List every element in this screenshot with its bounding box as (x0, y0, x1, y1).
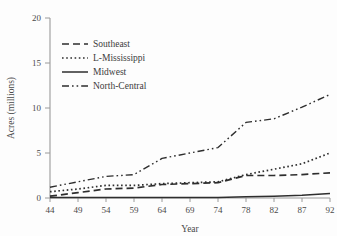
series-group (50, 95, 330, 198)
x-axis-ticks: 4449545964697478828792 (46, 198, 335, 215)
x-tick-label: 44 (46, 205, 56, 215)
series-line-l-mississippi (50, 153, 330, 192)
series-line-southeast (50, 173, 330, 196)
x-tick-label: 82 (270, 205, 279, 215)
x-tick-label: 92 (326, 205, 335, 215)
legend-label-l-mississippi: L-Mississippi (93, 53, 146, 63)
x-tick-label: 59 (130, 205, 140, 215)
y-axis-ticks: 05101520 (32, 13, 50, 203)
legend-label-north-central: North-Central (93, 81, 147, 91)
y-axis-title: Acres (millions) (6, 77, 17, 139)
chart-legend: SoutheastL-MississippiMidwestNorth-Centr… (62, 39, 147, 91)
x-tick-label: 64 (158, 205, 168, 215)
legend-label-midwest: Midwest (93, 67, 127, 77)
line-chart-canvas: 05101520 4449545964697478828792 Southeas… (0, 0, 337, 236)
chart-figure: 05101520 4449545964697478828792 Southeas… (0, 0, 337, 236)
x-tick-label: 87 (298, 205, 308, 215)
x-tick-label: 49 (74, 205, 84, 215)
series-line-north-central (50, 95, 330, 188)
y-tick-label: 20 (32, 13, 42, 23)
y-tick-label: 10 (32, 103, 42, 113)
y-tick-label: 15 (32, 58, 42, 68)
y-tick-label: 0 (37, 193, 42, 203)
y-tick-label: 5 (37, 148, 42, 158)
legend-label-southeast: Southeast (93, 39, 130, 49)
series-line-midwest (50, 194, 330, 198)
x-axis-title: Year (181, 224, 199, 234)
x-tick-label: 74 (214, 205, 224, 215)
x-tick-label: 54 (102, 205, 112, 215)
x-tick-label: 69 (186, 205, 196, 215)
x-tick-label: 78 (242, 205, 252, 215)
